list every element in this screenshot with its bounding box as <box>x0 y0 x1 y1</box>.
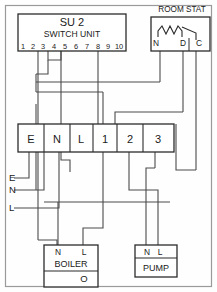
supply-label-e: E <box>9 172 15 183</box>
terminal-block[interactable]: E N L 1 2 3 <box>18 124 174 152</box>
terminal-block-l[interactable]: L <box>78 133 84 145</box>
mains-supply-labels: E N L <box>9 172 16 213</box>
supply-label-l: L <box>9 202 14 213</box>
terminal-block-n[interactable]: N <box>53 133 61 145</box>
terminal-block-3[interactable]: 3 <box>155 133 161 145</box>
terminal-block-outline <box>18 124 174 152</box>
terminal-block-e[interactable]: E <box>27 133 34 145</box>
su2-terminal-4[interactable]: 4 <box>52 42 56 51</box>
boiler-box[interactable]: N L BOILER O <box>44 245 98 287</box>
wire-block2-to-pump-live <box>129 152 158 245</box>
su2-terminal-7[interactable]: 7 <box>85 42 89 51</box>
wire-block1-to-boiler-live <box>83 152 103 245</box>
wire-roomstat-d-to-block2 <box>115 112 183 124</box>
supply-label-n: N <box>9 184 16 195</box>
su2-terminal-3[interactable]: 3 <box>41 42 45 51</box>
room-stat-terminal-n[interactable]: N <box>153 38 159 48</box>
wire-boiler-neutral-leg <box>38 240 57 245</box>
boiler-indicator: O <box>80 273 87 284</box>
wire-roomstat-c-to-block3 <box>176 124 196 170</box>
su2-terminal-9[interactable]: 9 <box>106 42 110 51</box>
room-stat-label: ROOM STAT <box>158 5 205 14</box>
pump-terminal-l[interactable]: L <box>158 247 163 257</box>
room-stat-terminal-c[interactable]: C <box>196 38 202 48</box>
room-stat-box[interactable]: ROOM STAT N D C <box>151 5 210 51</box>
wire-block-e-to-supply-e <box>14 152 29 178</box>
pump-terminal-n[interactable]: N <box>144 247 150 257</box>
pump-label: PUMP <box>143 263 169 273</box>
terminal-block-1[interactable]: 1 <box>102 133 108 145</box>
su2-terminal-6[interactable]: 6 <box>74 42 78 51</box>
terminal-block-2[interactable]: 2 <box>127 133 133 145</box>
boiler-label: BOILER <box>54 259 88 269</box>
pump-box[interactable]: N L PUMP <box>135 245 177 277</box>
room-stat-terminal-d[interactable]: D <box>180 38 186 48</box>
su2-terminal-10[interactable]: 10 <box>115 42 123 51</box>
wire-block3-to-pump-neutral <box>146 168 155 245</box>
su2-terminal-8[interactable]: 8 <box>96 42 100 51</box>
su2-terminal-5[interactable]: 5 <box>63 42 67 51</box>
su2-terminal-1[interactable]: 1 <box>21 42 25 51</box>
wiring-diagram-root: SU 2 SWITCH UNIT 1 2 3 4 5 6 7 8 9 10 RO… <box>0 0 217 292</box>
switch-unit-subtitle: SWITCH UNIT <box>44 29 101 39</box>
switch-unit-box[interactable]: SU 2 SWITCH UNIT 1 2 3 4 5 6 7 8 9 10 <box>18 14 126 51</box>
wire-su2-link-4-5 <box>48 51 61 60</box>
wiring-diagram-canvas: SU 2 SWITCH UNIT 1 2 3 4 5 6 7 8 9 10 RO… <box>0 0 217 292</box>
su2-terminal-2[interactable]: 2 <box>31 42 35 51</box>
boiler-terminal-n[interactable]: N <box>55 247 61 257</box>
boiler-terminal-l[interactable]: L <box>82 247 87 257</box>
switch-unit-title: SU 2 <box>60 16 84 28</box>
